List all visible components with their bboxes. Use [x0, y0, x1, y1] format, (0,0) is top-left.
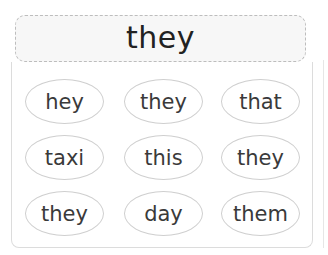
word-option[interactable]: day	[124, 191, 203, 236]
word-option[interactable]: them	[221, 191, 300, 236]
word-option[interactable]: hey	[25, 79, 104, 124]
word-option[interactable]: they	[25, 191, 104, 236]
word-option[interactable]: that	[221, 79, 300, 124]
divider	[323, 60, 324, 248]
word-option[interactable]: taxi	[25, 135, 104, 180]
word-option[interactable]: they	[124, 79, 203, 124]
word-option[interactable]: this	[124, 135, 203, 180]
word-option[interactable]: they	[221, 135, 300, 180]
target-word: they	[126, 20, 195, 55]
target-word-box: they	[15, 15, 306, 62]
